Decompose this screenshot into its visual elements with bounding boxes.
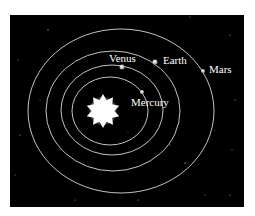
planet-mars (201, 69, 205, 73)
solar-system-diagram: Venus Earth Mars Mercury (0, 0, 255, 216)
label-venus: Venus (109, 52, 136, 64)
planet-venus (120, 65, 125, 70)
planet-mercury (140, 90, 144, 94)
label-earth: Earth (163, 54, 187, 66)
planet-earth (153, 60, 158, 65)
label-mercury: Mercury (131, 96, 169, 108)
label-mars: Mars (209, 63, 232, 75)
space-background (10, 15, 244, 207)
